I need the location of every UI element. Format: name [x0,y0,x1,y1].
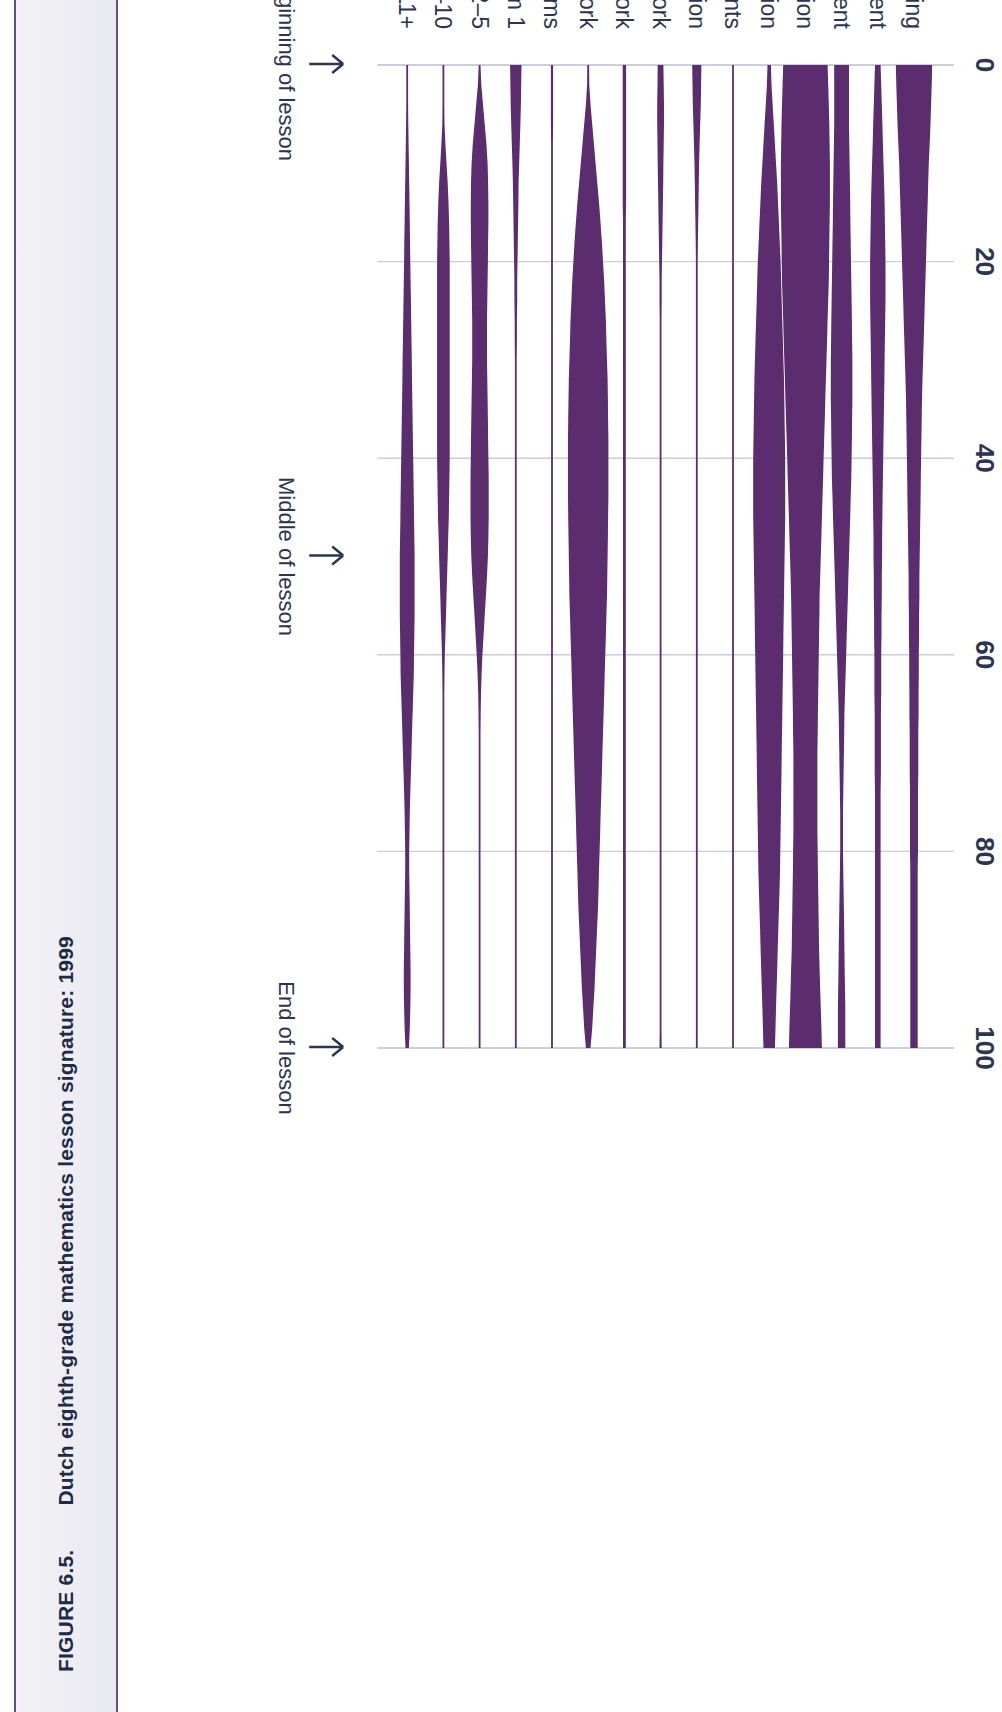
ribbon-public-interaction [781,65,830,1048]
category-label: Independent problems 2–5 [467,0,493,29]
axis-tick-label: 100 [970,1026,1000,1069]
ribbon-optional-student-presents [732,65,734,1048]
arrow-left-icon [309,55,343,73]
ribbon-concurrent-problems-seatwork [568,65,608,1048]
figure-title-rotated: FIGURE 6.5. Dutch eighth-grade mathemati… [14,6,118,1706]
arrow-left-icon [309,1038,343,1056]
ribbon-independent-problem-11 [400,65,415,1048]
ribbon-non-problem-mathematical-work [657,65,664,1048]
category-label: Mathematical organization [684,0,710,29]
category-label: Non-problem mathematical work [648,0,674,29]
axis-anchor-label: Middle of lesson [274,477,299,636]
ribbon-introducing-new-content [870,65,885,1048]
figure-title-banner: FIGURE 6.5. Dutch eighth-grade mathemati… [14,0,118,1712]
ribbon-independent-problems-2-5 [471,65,489,1048]
category-label: Private interaction [756,0,782,29]
chart-stage: 020406080100Percentage of lesson time el… [130,0,1002,1712]
ribbon-independent-problem-1 [510,65,521,1048]
figure-title: Dutch eighth-grade mathematics lesson si… [54,936,78,1506]
ribbon-concurrent-problems-classwork [623,65,626,1048]
arrow-left-icon [309,547,343,565]
chart-rotated-canvas: 020406080100Percentage of lesson time el… [130,0,1002,1712]
lesson-signature-chart: 020406080100Percentage of lesson time el… [130,0,1002,1712]
category-label: Introducing new content [865,0,891,30]
axis-tick-label: 0 [970,58,1000,72]
ribbon-mathematical-organization [692,65,701,1048]
axis-anchor-label: Beginning of lesson [274,0,299,161]
axis-tick-label: 80 [970,837,1000,866]
axis-anchor-label: End of lesson [274,981,299,1114]
ribbon-independent-problems-6-10 [437,65,450,1048]
figure-number: FIGURE 6.5. [54,1550,78,1672]
ribbon-practicing-new-content [831,65,853,1048]
axis-tick-label: 20 [970,247,1000,276]
category-label: Independent problem 11+ [394,0,420,29]
category-label: Reviewing [901,0,927,29]
ribbon-reviewing [896,65,932,1048]
category-label: Practicing new content [829,0,855,30]
category-label: Concurrent problems seatwork [575,0,601,29]
ribbon-answered-only-problems [551,65,553,1048]
axis-tick-label: 40 [970,444,1000,473]
axis-tick-label: 60 [970,640,1000,669]
ribbon-private-interaction [753,65,785,1048]
category-label: Independent problems 6–10 [430,0,456,29]
category-label: Answered-only problems [539,0,565,29]
category-label: Independent problem 1 [503,0,529,29]
category-label: Public interaction [792,0,818,29]
category-label: Concurrent problems classwork [611,0,637,29]
category-label: Optional, student presents [720,0,746,29]
